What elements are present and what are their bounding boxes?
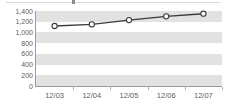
data-point-marker <box>164 14 169 19</box>
series-layer <box>0 0 226 110</box>
line-chart: 1,4001,2001,0008006004002000 12/0312/041… <box>0 0 226 110</box>
data-point-marker <box>52 23 57 28</box>
data-point-marker <box>89 22 94 27</box>
series-markers <box>52 11 206 29</box>
data-point-marker <box>201 11 206 16</box>
data-point-marker <box>126 18 131 23</box>
